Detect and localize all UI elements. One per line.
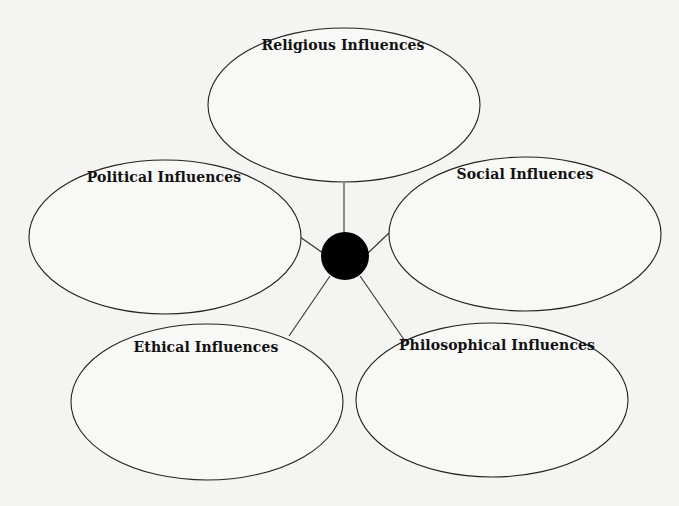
connector-ethical [289, 276, 330, 336]
center-hub [321, 232, 369, 280]
connector-philosophical [360, 276, 405, 341]
label-political-influences: Political Influences [87, 169, 241, 185]
label-social-influences: Social Influences [457, 166, 594, 182]
label-religious-influences: Religious Influences [261, 37, 424, 53]
connector-political [300, 237, 323, 253]
label-philosophical-influences: Philosophical Influences [399, 337, 595, 353]
connector-social [368, 233, 389, 253]
web-diagram [0, 0, 679, 506]
label-ethical-influences: Ethical Influences [134, 339, 279, 355]
